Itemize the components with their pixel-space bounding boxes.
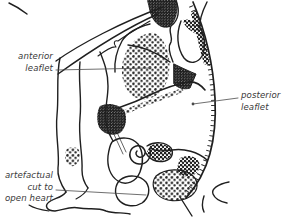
heart-leaflet-figure: anterior leaflet posterior leaflet artef… bbox=[0, 0, 290, 218]
leader-dot-posterior bbox=[192, 103, 195, 106]
bottom-foot-inner bbox=[76, 188, 88, 199]
wall-band-outer-edge bbox=[57, 58, 66, 192]
bottom-right-stroke-short bbox=[203, 196, 205, 212]
stipple-dark-recess bbox=[97, 104, 126, 135]
artefactual-cut-label: artefactual cut to open heart bbox=[0, 170, 53, 205]
bottom-right-hook bbox=[213, 182, 229, 203]
posterior-leaflet-label: posterior leaflet bbox=[241, 90, 289, 113]
bottom-foot-outline bbox=[47, 192, 130, 214]
anterior-leaflet-label: anterior leaflet bbox=[0, 51, 53, 74]
corner-stroke bbox=[9, 3, 27, 14]
leader-line-artefact bbox=[56, 190, 146, 195]
bottom-center-lump-2 bbox=[116, 176, 149, 206]
wall-band-inner-edge bbox=[79, 62, 88, 188]
leader-dot-anterior bbox=[149, 67, 152, 70]
bottom-right-stroke-slash bbox=[180, 197, 192, 216]
stipple-band-lower bbox=[65, 147, 80, 166]
